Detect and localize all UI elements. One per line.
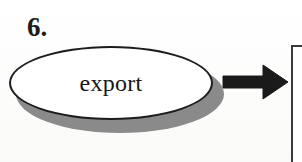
right-arrow-icon <box>221 62 290 102</box>
next-step-box-corner <box>291 45 302 162</box>
ellipse-label-text: export <box>9 46 213 120</box>
flowchart-screenshot: 6. export <box>0 0 302 162</box>
export-ellipse-node[interactable]: export <box>9 46 217 124</box>
step-number-label: 6. <box>27 12 47 42</box>
